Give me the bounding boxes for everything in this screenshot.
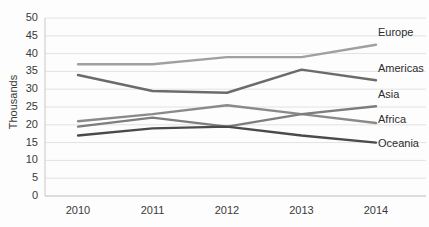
y-tick-label: 30	[12, 83, 38, 94]
x-tick-label: 2011	[129, 205, 177, 216]
x-tick-label: 2013	[278, 205, 326, 216]
x-tick-label: 2010	[54, 205, 102, 216]
series-lines-group	[78, 45, 376, 143]
y-tick-label: 20	[12, 119, 38, 130]
y-tick-label: 40	[12, 48, 38, 59]
y-tick-label: 35	[12, 65, 38, 76]
series-label-oceania: Oceania	[378, 138, 419, 149]
y-tick-label: 50	[12, 12, 38, 23]
y-tick-label: 25	[12, 101, 38, 112]
chart-plot-area	[0, 0, 429, 227]
series-label-africa: Africa	[378, 114, 406, 125]
y-tick-label: 0	[12, 190, 38, 201]
series-label-asia: Asia	[378, 89, 399, 100]
x-tick-label: 2012	[203, 205, 251, 216]
y-tick-label: 45	[12, 30, 38, 41]
series-line-europe	[78, 45, 376, 65]
series-label-europe: Europe	[378, 27, 413, 38]
series-label-americas: Americas	[378, 63, 424, 74]
line-chart: Thousands 05101520253035404550 201020112…	[0, 0, 429, 227]
y-tick-label: 15	[12, 137, 38, 148]
y-tick-label: 10	[12, 154, 38, 165]
series-line-oceania	[78, 127, 376, 143]
x-tick-label: 2014	[352, 205, 400, 216]
y-tick-label: 5	[12, 172, 38, 183]
